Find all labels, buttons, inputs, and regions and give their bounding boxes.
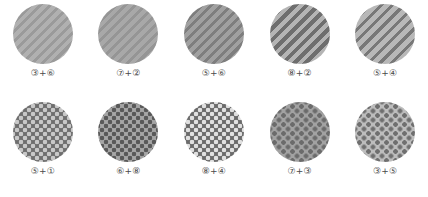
texture-swatch-cell[interactable]: ③+⑤	[342, 98, 428, 196]
dotted-circle-swatch	[98, 102, 158, 162]
texture-swatch-cell[interactable]: ③+⑥	[0, 0, 86, 98]
texture-swatch-cell[interactable]: ⑦+②	[86, 0, 172, 98]
dotted-circle-swatch	[355, 102, 415, 162]
swatch-label: ③+⑤	[373, 166, 397, 177]
striped-circle-swatch	[270, 4, 330, 64]
swatch-label: ⑤+①	[31, 166, 55, 177]
striped-circle-swatch	[184, 4, 244, 64]
swatch-label: ⑥+⑧	[116, 166, 140, 177]
striped-circle-swatch	[98, 4, 158, 64]
texture-swatch-cell[interactable]: ⑥+⑧	[86, 98, 172, 196]
swatch-label: ⑦+②	[116, 68, 140, 79]
texture-stimulus-grid: ③+⑥⑦+②⑤+⑥⑧+②⑤+④⑤+①⑥+⑧⑧+④⑦+③③+⑤	[0, 0, 428, 197]
dotted-circle-swatch	[13, 102, 73, 162]
dotted-texture-row: ⑤+①⑥+⑧⑧+④⑦+③③+⑤	[0, 98, 428, 196]
swatch-label: ⑦+③	[287, 166, 311, 177]
texture-swatch-cell[interactable]: ⑦+③	[257, 98, 343, 196]
swatch-label: ⑧+②	[287, 68, 311, 79]
texture-swatch-cell[interactable]: ⑤+①	[0, 98, 86, 196]
striped-circle-swatch	[355, 4, 415, 64]
swatch-label: ⑤+⑥	[202, 68, 226, 79]
dotted-circle-swatch	[270, 102, 330, 162]
texture-swatch-cell[interactable]: ⑧+④	[171, 98, 257, 196]
texture-swatch-cell[interactable]: ⑧+②	[257, 0, 343, 98]
swatch-label: ⑧+④	[202, 166, 226, 177]
striped-texture-row: ③+⑥⑦+②⑤+⑥⑧+②⑤+④	[0, 0, 428, 98]
texture-swatch-cell[interactable]: ⑤+④	[342, 0, 428, 98]
dotted-circle-swatch	[184, 102, 244, 162]
swatch-label: ⑤+④	[373, 68, 397, 79]
striped-circle-swatch	[13, 4, 73, 64]
texture-swatch-cell[interactable]: ⑤+⑥	[171, 0, 257, 98]
swatch-label: ③+⑥	[31, 68, 55, 79]
